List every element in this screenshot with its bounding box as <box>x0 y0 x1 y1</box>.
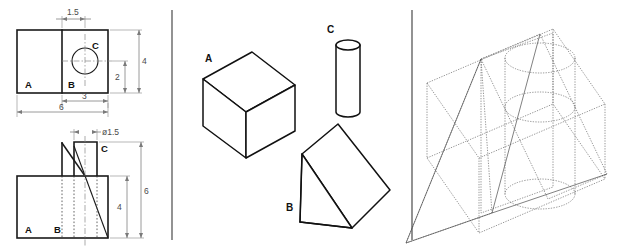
top-view-dim-right-width: 3 <box>82 91 87 101</box>
front-view-diagonal <box>74 146 108 238</box>
top-view-dim-center-height: 2 <box>115 72 120 82</box>
top-view-arrow-tw-left <box>17 110 22 114</box>
cylinder-body <box>336 45 360 117</box>
top-view-dim-total-width: 6 <box>59 102 64 112</box>
technical-drawing-figure: A B C 1.5 4 2 <box>0 0 628 248</box>
top-view-dim-total-height: 4 <box>142 56 147 66</box>
assembly-cylinder-bottom-ellipse <box>505 179 575 209</box>
front-view-label-b: B <box>54 224 61 235</box>
assembly-cylinder-top-ellipse <box>505 43 575 73</box>
front-view-arrow-th-bot <box>139 233 143 238</box>
front-view-boss-outline <box>74 142 97 176</box>
top-view-arrow-h-top <box>137 30 141 35</box>
assembly-wedge-edge-3 <box>406 213 492 243</box>
solid-cylinder-c: C <box>327 24 360 117</box>
top-view-dim-offset: 1.5 <box>67 7 79 17</box>
cylinder-top-ellipse <box>336 40 360 50</box>
front-view-arrow-th-top <box>139 142 143 147</box>
top-view-arrow-offset-left <box>62 17 67 21</box>
front-view-label-c: C <box>101 143 108 154</box>
top-view-group: A B C 1.5 4 2 <box>17 7 147 117</box>
top-view-arrow-offset-right <box>80 17 85 21</box>
wedge-label-b: B <box>286 202 293 213</box>
assembly-wedge-edge-4 <box>492 174 607 213</box>
assembly-wedge-edge-1 <box>406 59 481 243</box>
assembly-wedge-slope <box>481 34 607 199</box>
assembly-partition-plane <box>481 33 553 213</box>
top-view-arrow-h-bot <box>137 88 141 93</box>
assembly-cylinder-mid-ellipse <box>505 92 575 122</box>
front-view-dim-total-height: 6 <box>144 186 149 196</box>
front-view-arrow-bh-bot <box>125 233 129 238</box>
top-view-arrow-tw-right <box>103 110 108 114</box>
cylinder-label-c: C <box>327 24 334 35</box>
top-view-label-a: A <box>25 79 32 90</box>
front-view-group: A B C ø1.5 6 4 <box>17 127 149 246</box>
assembly-wedge-edge-2 <box>492 34 540 213</box>
top-view-label-c: C <box>92 40 99 51</box>
top-view-arrow-c-top <box>123 61 127 66</box>
assembly-box-top <box>427 29 605 158</box>
assembly-wireframe <box>406 29 607 243</box>
top-view-arrow-rw-right <box>103 99 108 103</box>
front-view-label-a: A <box>25 224 32 235</box>
top-view-label-b: B <box>68 79 75 90</box>
front-view-arrow-dia-right <box>92 130 97 134</box>
front-view-arrow-bh-top <box>125 176 129 181</box>
box-label-a: A <box>205 53 212 64</box>
front-view-dim-body-height: 4 <box>117 202 122 212</box>
solid-wedge-b: B <box>286 124 390 228</box>
front-view-arrow-dia-left <box>74 130 79 134</box>
solid-box-a: A <box>203 52 295 158</box>
front-view-dim-diameter: ø1.5 <box>102 127 119 137</box>
top-view-arrow-c-bot <box>123 88 127 93</box>
